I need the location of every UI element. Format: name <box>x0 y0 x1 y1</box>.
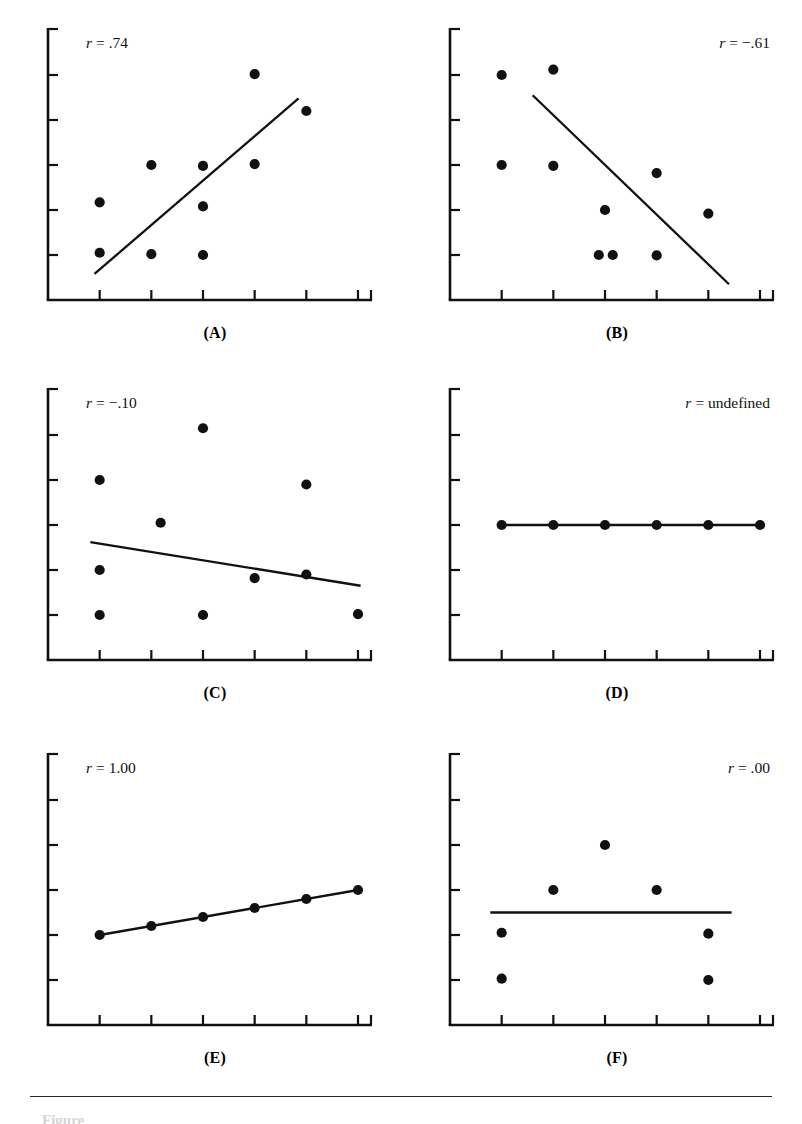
data-points <box>95 69 312 260</box>
data-point <box>198 423 208 433</box>
figure-root: r= .74(A)r= −.61(B)r= −.10(C)r= undefine… <box>0 0 802 1124</box>
axis-ticks <box>48 754 371 1025</box>
data-point <box>548 885 558 895</box>
data-points <box>95 423 364 620</box>
data-point <box>250 69 260 79</box>
data-point <box>198 912 208 922</box>
data-point <box>703 520 713 530</box>
panel-label-c: (C) <box>30 684 400 702</box>
chart-panel-f: r= .00(F) <box>432 743 802 1073</box>
data-point <box>250 903 260 913</box>
data-point <box>497 160 507 170</box>
axis-ticks <box>450 754 773 1025</box>
data-point <box>652 885 662 895</box>
data-point <box>652 520 662 530</box>
data-point <box>608 250 618 260</box>
data-point <box>95 475 105 485</box>
data-point <box>652 250 662 260</box>
data-point <box>95 610 105 620</box>
regression-line <box>90 542 360 586</box>
data-point <box>600 205 610 215</box>
correlation-symbol: r <box>685 394 692 411</box>
correlation-annotation: r= 1.00 <box>86 759 136 776</box>
caption-divider <box>30 1096 772 1097</box>
data-point <box>353 885 363 895</box>
data-point <box>600 520 610 530</box>
regression-line <box>95 98 299 274</box>
chart-panel-c: r= −.10(C) <box>30 378 400 708</box>
regression-line <box>533 95 729 284</box>
chart-panel-a: r= .74(A) <box>30 18 400 348</box>
panel-label-b: (B) <box>432 324 802 342</box>
panel-label-e: (E) <box>30 1049 400 1067</box>
data-point <box>600 840 610 850</box>
axis-lines <box>47 388 372 660</box>
correlation-symbol: r <box>719 34 726 51</box>
data-points <box>497 65 714 261</box>
correlation-annotation: r= .00 <box>728 759 770 776</box>
data-point <box>156 518 166 528</box>
data-point <box>703 975 713 985</box>
data-point <box>198 201 208 211</box>
data-point <box>198 250 208 260</box>
data-point <box>497 974 507 984</box>
axis-lines <box>449 753 774 1025</box>
data-point <box>703 209 713 219</box>
correlation-symbol: r <box>86 759 93 776</box>
data-point <box>95 248 105 258</box>
data-point <box>301 106 311 116</box>
data-point <box>198 161 208 171</box>
data-point <box>146 160 156 170</box>
axis-lines <box>47 28 372 300</box>
correlation-annotation: r= .74 <box>86 34 128 51</box>
data-point <box>497 520 507 530</box>
data-point <box>301 479 311 489</box>
correlation-annotation: r= −.61 <box>719 34 770 51</box>
data-point <box>146 921 156 931</box>
data-point <box>548 161 558 171</box>
data-point <box>250 159 260 169</box>
data-point <box>548 520 558 530</box>
data-point <box>497 70 507 80</box>
regression-line <box>100 890 358 935</box>
panel-label-a: (A) <box>30 324 400 342</box>
correlation-value: = .00 <box>738 759 770 776</box>
data-point <box>95 565 105 575</box>
data-point <box>146 249 156 259</box>
data-point <box>95 197 105 207</box>
data-point <box>301 894 311 904</box>
axis-ticks <box>48 389 371 660</box>
correlation-annotation: r= undefined <box>685 394 770 411</box>
chart-panel-b: r= −.61(B) <box>432 18 802 348</box>
data-point <box>95 930 105 940</box>
axis-lines <box>47 753 372 1025</box>
data-point <box>594 250 604 260</box>
figure-caption: Figure <box>42 1112 772 1124</box>
panel-label-f: (F) <box>432 1049 802 1067</box>
data-point <box>755 520 765 530</box>
correlation-value: = −.61 <box>729 34 770 51</box>
chart-panel-e: r= 1.00(E) <box>30 743 400 1073</box>
correlation-value: = −.10 <box>96 394 137 411</box>
axis-ticks <box>48 29 371 300</box>
data-point <box>198 610 208 620</box>
data-point <box>497 928 507 938</box>
data-point <box>652 168 662 178</box>
correlation-value: = 1.00 <box>96 759 136 776</box>
correlation-symbol: r <box>728 759 735 776</box>
correlation-symbol: r <box>86 394 93 411</box>
data-point <box>353 609 363 619</box>
chart-panel-d: r= undefined(D) <box>432 378 802 708</box>
correlation-annotation: r= −.10 <box>86 394 137 411</box>
data-point <box>703 929 713 939</box>
correlation-symbol: r <box>86 34 93 51</box>
data-point <box>301 569 311 579</box>
correlation-value: = .74 <box>96 34 128 51</box>
data-point <box>250 573 260 583</box>
panel-label-d: (D) <box>432 684 802 702</box>
correlation-value: = undefined <box>695 394 770 411</box>
data-point <box>548 65 558 75</box>
